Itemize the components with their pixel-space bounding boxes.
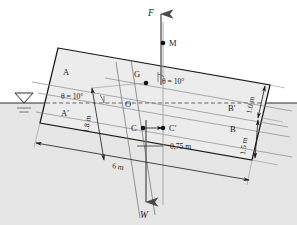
metacenter-label: M <box>169 38 177 48</box>
figure-canvas: F W M G O C C′ A A′ B′ B <box>0 0 297 225</box>
point-metacenter <box>161 41 166 46</box>
origin-label: O <box>125 99 131 109</box>
center-of-gravity-label: G <box>134 69 140 79</box>
heel-angle-label-right: θ = 10° <box>162 77 184 86</box>
weight-label: W <box>140 210 149 220</box>
point-center-of-gravity <box>144 81 149 86</box>
center-of-buoyancy-shifted-label: C′ <box>169 123 177 133</box>
corner-a-label: A <box>63 67 70 77</box>
heel-angle-label-left: θ = 10° <box>61 92 83 101</box>
corner-b-prime-label: B′ <box>228 103 236 113</box>
corner-b-label: B <box>230 124 236 134</box>
dim-shift-label: 0,75 m <box>170 142 191 151</box>
corner-a-prime-label: A′ <box>61 108 69 118</box>
stability-diagram: F W M G O C C′ A A′ B′ B <box>0 0 297 225</box>
center-of-buoyancy-label: C <box>131 123 137 133</box>
buoyant-force-label: F <box>147 8 154 18</box>
